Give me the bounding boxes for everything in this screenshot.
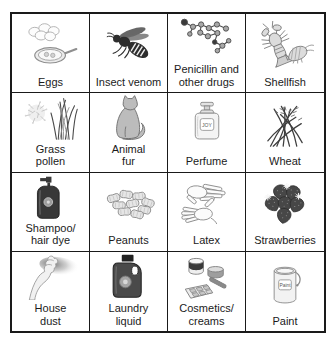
paint-can-icon: Paint — [246, 252, 324, 315]
cell-insect-venom: Insect venom — [90, 14, 168, 93]
figure-frame: Eggs — [10, 12, 326, 333]
cell-grass-pollen: Grass pollen — [12, 93, 90, 172]
cell-label: Paint — [271, 315, 298, 332]
shellfish-icon — [246, 14, 324, 76]
cell-laundry-liquid: Laundry liquid — [90, 252, 168, 331]
cell-label: Cosmetics/ creams — [178, 302, 234, 331]
cell-shellfish: Shellfish — [246, 14, 324, 93]
shampoo-bottle-icon — [12, 173, 89, 222]
wheat-icon — [246, 93, 324, 155]
cell-wheat: Wheat — [246, 93, 324, 172]
eggs-icon — [12, 14, 89, 76]
cell-animal-fur: Animal fur — [90, 93, 168, 172]
cell-label: Eggs — [37, 76, 64, 93]
perfume-label-text: JOY — [202, 121, 212, 127]
cell-latex: Latex — [168, 173, 246, 252]
cosmetics-icon — [168, 252, 245, 302]
cell-paint: Paint Paint — [246, 252, 324, 331]
cell-label: House dust — [34, 302, 68, 331]
cell-label: Shampoo/ hair dye — [24, 222, 76, 251]
latex-gloves-icon — [168, 173, 245, 235]
cell-label: Animal fur — [111, 143, 147, 172]
cell-perfume: JOY Perfume — [168, 93, 246, 172]
allergen-grid: Eggs — [12, 14, 324, 331]
cell-label: Insect venom — [95, 76, 162, 93]
cell-label: Wheat — [268, 155, 302, 172]
allergens-figure: Eggs — [0, 0, 334, 343]
laundry-jug-icon — [90, 252, 167, 302]
cell-shampoo-hair-dye: Shampoo/ hair dye — [12, 173, 90, 252]
house-dust-icon — [12, 252, 89, 302]
molecule-icon — [168, 14, 245, 63]
paint-label-text: Paint — [279, 282, 291, 287]
cell-label: Peanuts — [107, 234, 149, 251]
cell-house-dust: House dust — [12, 252, 90, 331]
peanuts-icon — [90, 173, 167, 235]
cell-label: Strawberries — [253, 234, 317, 251]
cell-label: Perfume — [185, 155, 229, 172]
cat-icon — [90, 93, 167, 142]
cell-strawberries: Strawberries — [246, 173, 324, 252]
strawberries-icon — [246, 173, 324, 235]
cell-label: Latex — [192, 234, 221, 251]
cell-eggs: Eggs — [12, 14, 90, 93]
perfume-bottle-icon: JOY — [168, 93, 245, 155]
wasp-icon — [90, 14, 167, 76]
cell-cosmetics-creams: Cosmetics/ creams — [168, 252, 246, 331]
grass-pollen-icon — [12, 93, 89, 142]
cell-label: Grass pollen — [35, 143, 66, 172]
cell-label: Laundry liquid — [108, 302, 150, 331]
cell-penicillin: Penicillin and other drugs — [168, 14, 246, 93]
cell-peanuts: Peanuts — [90, 173, 168, 252]
cell-label: Shellfish — [263, 76, 307, 93]
cell-label: Penicillin and other drugs — [173, 63, 240, 92]
